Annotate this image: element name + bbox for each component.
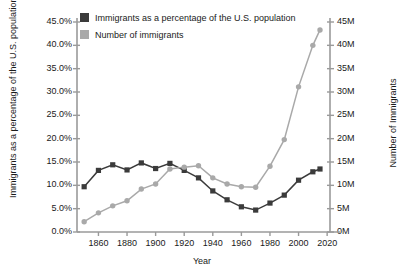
- data-point-marker: [182, 164, 187, 169]
- data-point-marker: [253, 207, 258, 212]
- data-point-marker: [296, 178, 301, 183]
- data-point-marker: [139, 186, 144, 191]
- data-point-marker: [167, 161, 172, 166]
- data-point-marker: [110, 162, 115, 167]
- data-point-marker: [124, 198, 129, 203]
- data-point-marker: [81, 219, 86, 224]
- data-point-marker: [267, 200, 272, 205]
- data-point-marker: [124, 167, 129, 172]
- data-point-marker: [110, 203, 115, 208]
- immigration-chart: Immigrants as a percentage of the U.S. p…: [0, 0, 404, 275]
- data-point-marker: [210, 175, 215, 180]
- data-point-marker: [317, 166, 322, 171]
- data-point-marker: [210, 188, 215, 193]
- data-point-marker: [239, 184, 244, 189]
- data-point-marker: [224, 181, 229, 186]
- data-point-marker: [139, 160, 144, 165]
- data-point-marker: [153, 166, 158, 171]
- data-point-marker: [196, 175, 201, 180]
- data-point-marker: [96, 168, 101, 173]
- data-point-marker: [267, 164, 272, 169]
- data-point-marker: [82, 184, 87, 189]
- data-point-marker: [224, 197, 229, 202]
- data-point-marker: [310, 43, 315, 48]
- data-point-marker: [196, 163, 201, 168]
- data-point-marker: [167, 166, 172, 171]
- data-point-marker: [96, 210, 101, 215]
- data-point-marker: [153, 181, 158, 186]
- data-point-marker: [253, 185, 258, 190]
- data-point-marker: [310, 169, 315, 174]
- data-point-marker: [282, 193, 287, 198]
- data-point-marker: [317, 27, 322, 32]
- data-point-marker: [296, 84, 301, 89]
- data-point-marker: [282, 137, 287, 142]
- plot-area: [0, 0, 404, 275]
- data-point-marker: [239, 204, 244, 209]
